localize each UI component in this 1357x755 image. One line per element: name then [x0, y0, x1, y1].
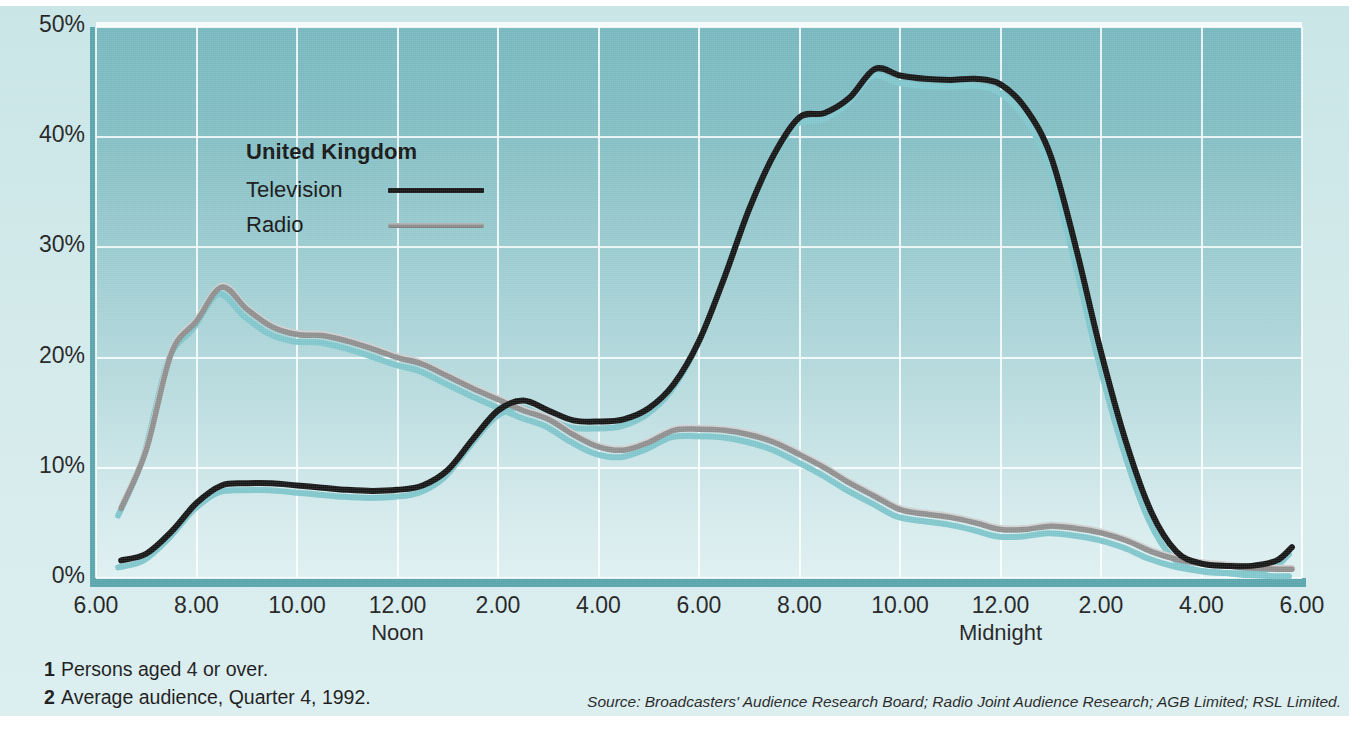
footnote-1-text: Persons aged 4 or over. — [61, 658, 268, 680]
legend-item-radio: Radio — [246, 214, 484, 236]
y-tick-label: 50% — [5, 11, 85, 38]
legend-swatch-radio-icon — [388, 223, 484, 228]
plot-area — [96, 27, 1302, 578]
footnote-2-text: Average audience, Quarter 4, 1992. — [61, 686, 371, 708]
chart-figure: 50%40%30%20%10%0% 6.008.0010.0012.00Noon… — [0, 0, 1357, 755]
bottom-white-margin — [0, 716, 1357, 755]
x-tick-sublabel: Midnight — [921, 620, 1081, 646]
footnote-2: 2Average audience, Quarter 4, 1992. — [44, 683, 371, 711]
legend-title: United Kingdom — [246, 139, 484, 165]
footnote-1: 1Persons aged 4 or over. — [44, 655, 371, 683]
y-tick-label: 10% — [5, 452, 85, 479]
top-white-margin — [0, 0, 1357, 6]
legend-item-television: Television — [246, 179, 484, 201]
plot-bottom-rail — [90, 578, 1306, 587]
footnote-2-number: 2 — [44, 683, 61, 711]
x-tick-label: 6.00 — [1242, 592, 1357, 619]
footnote-1-number: 1 — [44, 655, 61, 683]
x-tick-sublabel: Noon — [318, 620, 478, 646]
y-tick-label: 30% — [5, 231, 85, 258]
y-tick-label: 0% — [5, 562, 85, 589]
footnotes: 1Persons aged 4 or over. 2Average audien… — [44, 655, 371, 711]
legend-label-television: Television — [246, 177, 388, 203]
legend: United Kingdom Television Radio — [246, 139, 484, 249]
source-note: Source: Broadcasters' Audience Research … — [587, 693, 1341, 711]
series-lines — [96, 27, 1302, 578]
y-tick-label: 40% — [5, 121, 85, 148]
legend-label-radio: Radio — [246, 212, 388, 238]
y-tick-label: 20% — [5, 342, 85, 369]
legend-swatch-television-icon — [388, 188, 484, 193]
